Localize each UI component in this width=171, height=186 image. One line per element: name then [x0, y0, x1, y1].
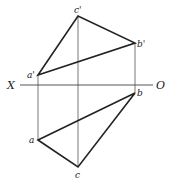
- label-c-prime: c': [74, 5, 82, 15]
- axis-label-o: O: [156, 79, 165, 92]
- label-b-prime: b': [137, 39, 145, 49]
- label-b: b: [137, 88, 143, 98]
- label-a: a: [29, 135, 34, 145]
- label-a-prime: a': [27, 70, 35, 80]
- label-c: c: [75, 170, 80, 180]
- axis-label-x: X: [6, 79, 16, 92]
- top-view-triangle: [38, 93, 135, 167]
- front-view-triangle: [38, 16, 135, 75]
- projection-diagram: c' b' a' X O b a c: [0, 0, 171, 186]
